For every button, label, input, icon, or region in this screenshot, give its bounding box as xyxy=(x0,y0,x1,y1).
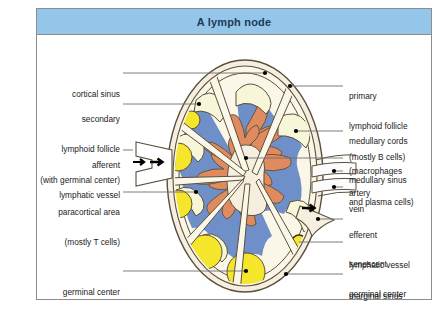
afferent-lymphatic-vessel xyxy=(133,142,172,186)
label-germinal-center: germinal center xyxy=(40,266,120,314)
label-paracortical-area: paracortical area (mostly T cells) xyxy=(30,186,120,268)
label-marginal-sinus: marginal sinus xyxy=(349,270,441,314)
afferent-flow-arrow-1 xyxy=(133,159,144,165)
lymph-node-body xyxy=(133,60,356,293)
lymph-node-figure: A lymph node xyxy=(0,0,443,314)
